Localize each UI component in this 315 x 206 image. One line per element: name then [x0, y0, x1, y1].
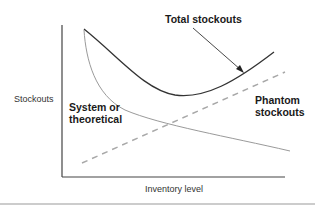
- y-axis-label: Stockouts: [14, 94, 54, 104]
- total-stockouts-label: Total stockouts: [165, 13, 242, 25]
- system-label-line2: theoretical: [69, 113, 122, 125]
- phantom-label-line2: stockouts: [255, 106, 305, 118]
- total-stockouts-curve: [84, 29, 274, 96]
- system-theoretical-label: System or theoretical: [69, 101, 122, 125]
- system-label-line1: System or: [69, 101, 122, 113]
- phantom-label-line1: Phantom: [255, 94, 305, 106]
- theoretical-stockouts-curve: [84, 30, 290, 151]
- phantom-stockouts-label: Phantom stockouts: [255, 94, 305, 118]
- x-axis-label: Inventory level: [145, 184, 203, 194]
- total-stockouts-arrow: [193, 28, 241, 70]
